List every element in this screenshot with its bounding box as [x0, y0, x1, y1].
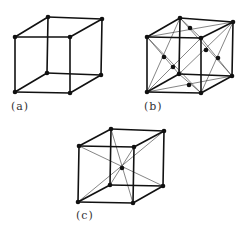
cube-edge-line — [15, 73, 47, 92]
lattice-atom-corner — [45, 71, 50, 76]
cube-edge-line — [78, 202, 133, 203]
cube-edge-line — [15, 17, 48, 37]
lattice-atom-corner — [100, 17, 105, 22]
lattice-atom-interior — [216, 56, 221, 61]
lattice-atom-corner — [199, 36, 204, 41]
cube-edge-line — [163, 131, 164, 186]
lattice-atom-corner — [162, 129, 167, 134]
cube-edge-line — [48, 17, 102, 19]
lattice-atom-corner — [99, 73, 104, 78]
cube-edge-line — [133, 186, 163, 203]
cube-edge-line — [232, 22, 233, 76]
cube-edge-line — [79, 146, 134, 147]
cube-edge-line — [147, 74, 179, 92]
lattice-atom-corner — [199, 91, 204, 96]
cube-edge-line — [101, 19, 102, 75]
label-simple-cubic: (a) — [11, 100, 29, 113]
lattice-atom-corner — [108, 183, 113, 188]
label-face-centered-cubic: (b) — [144, 100, 163, 113]
lattice-atom-corner — [77, 144, 82, 149]
cube-edge-line — [111, 129, 164, 131]
cube-edge-line — [78, 185, 110, 202]
crystal-lattice-diagram — [0, 0, 247, 234]
lattice-atom-corner — [161, 184, 166, 189]
cube-edge-line — [201, 22, 233, 38]
lattice-atom-corner — [68, 35, 73, 40]
cube-edge-line — [179, 18, 180, 74]
lattice-atom-interior — [162, 55, 167, 60]
lattice-atom-corner — [13, 90, 18, 95]
lattice-atom-corner — [46, 15, 51, 20]
lattice-atom-corner — [145, 35, 150, 40]
cube-edge-line — [47, 17, 48, 73]
cube-edge-line — [47, 73, 101, 75]
lattice-atom-corner — [131, 201, 136, 206]
lattice-atom-corner — [76, 200, 81, 205]
lattice-atom-corner — [13, 35, 18, 40]
lattice-atom-corner — [109, 127, 114, 132]
lattice-atom-interior — [120, 166, 125, 171]
label-body-centered-cubic: (c) — [76, 209, 94, 222]
lattice-atom-interior — [204, 48, 209, 53]
cube-edge-line — [70, 19, 102, 37]
cube-edge-line — [133, 147, 134, 203]
cube-edge-line — [179, 74, 232, 76]
cube-edge-line — [78, 146, 79, 202]
cube-edge-line — [147, 92, 201, 93]
cube-edge-line — [134, 131, 164, 147]
cube-edge-line — [110, 129, 111, 185]
lattice-atom-interior — [187, 83, 192, 88]
cube-edge-line — [180, 18, 233, 22]
lattice-atom-corner — [178, 16, 183, 21]
cube-edge-line — [15, 92, 70, 93]
cube-edge-line — [79, 129, 111, 146]
lattice-atom-corner — [177, 72, 182, 77]
cube-edge-line — [110, 185, 163, 186]
lattice-atom-interior — [171, 65, 176, 70]
cube-edge-line — [147, 37, 201, 38]
lattice-atom-corner — [230, 74, 235, 79]
lattice-atom-interior — [188, 26, 193, 31]
lattice-atom-corner — [145, 90, 150, 95]
lattice-atom-corner — [231, 20, 236, 25]
cube-edge-line — [70, 75, 101, 93]
lattice-atom-corner — [132, 145, 137, 150]
lattice-atom-corner — [68, 91, 73, 96]
cube-edge-line — [201, 76, 232, 93]
